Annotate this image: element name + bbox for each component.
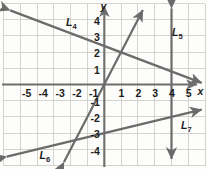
line-label-L4: L4 — [66, 17, 77, 31]
x-tick-label-4: 4 — [169, 88, 175, 99]
y-axis-label: y — [101, 1, 107, 12]
line-label-L7-subscript: 7 — [187, 125, 191, 134]
line-label-L4-subscript: 4 — [72, 22, 76, 31]
x-tick-label--2: -2 — [72, 88, 81, 99]
line-label-L7: L7 — [181, 120, 192, 134]
line-label-L6: L6 — [40, 150, 51, 164]
x-tick-label-1: 1 — [119, 88, 125, 99]
x-tick-label-5: 5 — [186, 88, 192, 99]
line-L4 — [10, 10, 202, 83]
line-label-L5-subscript: 5 — [178, 32, 182, 41]
x-tick-label-2: 2 — [135, 88, 141, 99]
y-tick-label-3: 3 — [94, 32, 100, 43]
y-tick-label--2: -2 — [91, 113, 100, 124]
coordinate-plane-figure: -5 -4 -3 -2 -1 1 2 3 4 5 4 3 2 1 -1 -2 -… — [0, 0, 207, 169]
y-tick-label-1: 1 — [94, 65, 100, 76]
line-label-L6-subscript: 6 — [46, 155, 50, 164]
y-tick-label--3: -3 — [91, 129, 100, 140]
y-tick-label--4: -4 — [91, 146, 100, 157]
y-tick-label--1: -1 — [91, 97, 100, 108]
x-tick-label--4: -4 — [39, 88, 48, 99]
y-tick-label-2: 2 — [94, 48, 100, 59]
line-label-L5: L5 — [172, 27, 183, 41]
x-tick-label--5: -5 — [22, 88, 31, 99]
x-tick-label-3: 3 — [152, 88, 158, 99]
y-tick-label-4: 4 — [94, 16, 100, 27]
x-tick-label--3: -3 — [55, 88, 64, 99]
x-axis-label: x — [198, 86, 204, 97]
